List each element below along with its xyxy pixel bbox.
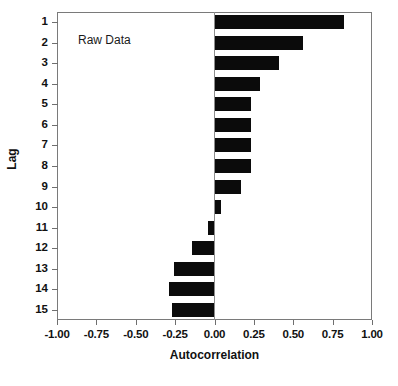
x-tick (175, 320, 176, 325)
y-tick-label-lag-1: 1 (10, 15, 48, 28)
bar-lag-2 (215, 36, 303, 50)
y-tick (52, 84, 58, 85)
y-tick-label-lag-11: 11 (10, 221, 48, 234)
bar-lag-7 (215, 138, 251, 152)
x-tick (215, 320, 216, 325)
x-tick (136, 320, 137, 325)
x-axis-title: Autocorrelation (57, 348, 372, 362)
y-tick (52, 63, 58, 64)
y-tick (52, 289, 58, 290)
y-tick-label-lag-13: 13 (10, 262, 48, 275)
y-tick-label-lag-3: 3 (10, 56, 48, 69)
x-tick (372, 320, 373, 325)
y-tick (52, 207, 58, 208)
x-tick-label: 1.00 (345, 327, 398, 341)
bar-lag-15 (172, 303, 215, 317)
bar-lag-8 (215, 159, 251, 173)
y-tick-label-lag-5: 5 (10, 97, 48, 110)
bar-lag-11 (208, 221, 214, 235)
bar-lag-4 (215, 77, 261, 91)
bar-lag-14 (169, 282, 215, 296)
x-tick (254, 320, 255, 325)
y-tick (52, 104, 58, 105)
y-tick-label-lag-14: 14 (10, 282, 48, 295)
y-tick (52, 125, 58, 126)
autocorrelation-chart: -1.00-0.75-0.50-0.250.000.250.500.751.00… (0, 0, 398, 386)
series-annotation-label: Raw Data (78, 33, 131, 47)
y-tick (52, 22, 58, 23)
bar-lag-10 (215, 200, 221, 214)
y-tick (52, 166, 58, 167)
y-tick-label-lag-2: 2 (10, 36, 48, 49)
y-axis-title: Lag (5, 129, 19, 189)
y-tick (52, 187, 58, 188)
y-tick (52, 228, 58, 229)
y-tick-label-lag-12: 12 (10, 241, 48, 254)
y-tick (52, 310, 58, 311)
y-tick (52, 269, 58, 270)
y-tick (52, 145, 58, 146)
x-tick (333, 320, 334, 325)
y-tick (52, 248, 58, 249)
bar-lag-6 (215, 118, 251, 132)
bar-lag-12 (192, 241, 214, 255)
bar-lag-9 (215, 180, 242, 194)
y-tick-label-lag-10: 10 (10, 200, 48, 213)
y-tick-label-lag-4: 4 (10, 77, 48, 90)
y-tick (52, 43, 58, 44)
bar-lag-5 (215, 97, 251, 111)
bar-lag-13 (174, 262, 215, 276)
x-tick (57, 320, 58, 325)
y-tick-label-lag-15: 15 (10, 303, 48, 316)
x-tick (293, 320, 294, 325)
bars-layer (58, 13, 371, 319)
bar-lag-1 (215, 15, 344, 29)
bar-lag-3 (215, 56, 280, 70)
x-tick (96, 320, 97, 325)
